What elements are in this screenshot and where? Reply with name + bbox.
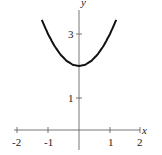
chart: -2 -1 1 2 1 3 x y	[0, 0, 162, 155]
x-tick-label: -2	[12, 136, 21, 148]
x-tick-label: -1	[44, 136, 53, 148]
y-tick-label: 3	[68, 28, 74, 40]
x-axis-label: x	[141, 124, 147, 136]
y-axis-label: y	[80, 0, 86, 8]
y-tick-label: 1	[68, 92, 74, 104]
x-tick-label: 2	[137, 136, 143, 148]
x-tick-label: 1	[108, 136, 114, 148]
